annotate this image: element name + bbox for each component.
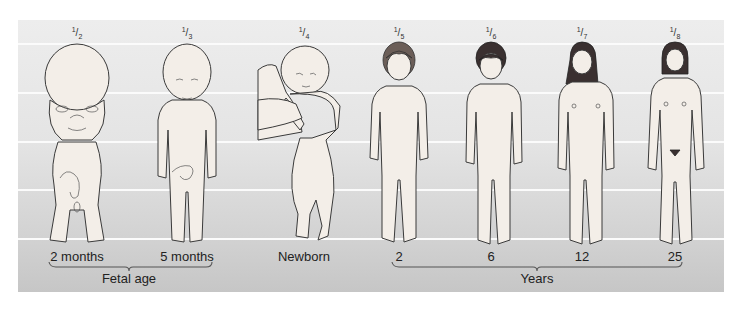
figure-age-25 <box>648 42 704 244</box>
group-label-fetal-age: Fetal age <box>102 271 156 286</box>
age-label-5-months: 5 months <box>160 249 213 264</box>
figure-newborn <box>258 46 340 240</box>
figure-age-6 <box>466 42 522 244</box>
figures-illustration <box>0 0 742 309</box>
age-label-2: 2 <box>395 249 402 264</box>
age-label-12: 12 <box>575 249 589 264</box>
figure-age-12 <box>558 42 614 244</box>
age-label-6: 6 <box>487 249 494 264</box>
group-label-years: Years <box>521 271 554 286</box>
age-label-25: 25 <box>668 249 682 264</box>
age-label-2-months: 2 months <box>50 249 103 264</box>
figure-age-2 <box>370 42 428 242</box>
years-brace <box>392 262 682 271</box>
figure-2-months <box>45 44 109 242</box>
figure-5-months <box>158 44 216 242</box>
age-label-newborn: Newborn <box>278 249 330 264</box>
